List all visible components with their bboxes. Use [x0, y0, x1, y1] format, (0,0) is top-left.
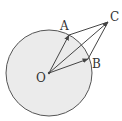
- label-a: A: [59, 19, 69, 33]
- label-b: B: [92, 57, 101, 71]
- point-o: [48, 72, 50, 74]
- vector-diagram: O A B C: [0, 0, 122, 121]
- diagram-canvas: O A B C: [0, 0, 122, 121]
- label-c: C: [110, 10, 119, 24]
- label-o: O: [36, 71, 46, 85]
